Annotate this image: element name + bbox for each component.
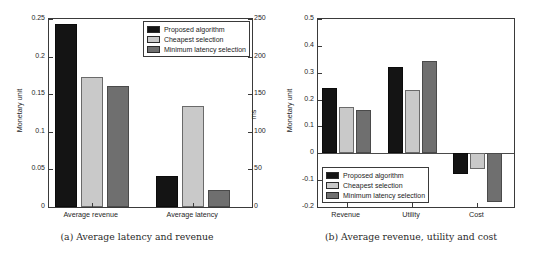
y2-tick-label: 50 <box>254 164 276 172</box>
y-tick <box>318 46 322 47</box>
bar-average-latency-minimum-latency-selection <box>208 190 230 207</box>
y-tick-label: 0.25 <box>18 14 45 22</box>
bar-average-revenue-cheapest-selection <box>81 77 103 207</box>
figure-two-panel-bar-charts: Proposed algorithm Cheapest selection Mi… <box>0 0 548 254</box>
x-tick <box>92 203 93 207</box>
legend-label-minimum-latency-selection: Minimum latency selection <box>343 191 425 200</box>
legend-label-minimum-latency-selection: Minimum latency selection <box>164 45 246 54</box>
legend-swatch-proposed-algorithm <box>326 172 339 179</box>
legend-label-proposed-algorithm: Proposed algorithm <box>343 171 404 180</box>
bar-cost-proposed-algorithm <box>453 153 468 174</box>
y2-tick <box>248 19 252 20</box>
bar-average-latency-cheapest-selection <box>182 106 204 207</box>
y-tick-label: 0.05 <box>18 164 45 172</box>
legend-swatch-minimum-latency-selection <box>326 192 339 199</box>
bar-average-revenue-proposed-algorithm <box>55 24 77 207</box>
y2-tick-label: 150 <box>254 89 276 97</box>
legend-swatch-cheapest-selection <box>147 36 160 43</box>
y2-tick-label: 250 <box>254 14 276 22</box>
bar-average-revenue-minimum-latency-selection <box>107 86 129 207</box>
y2-axis-title-a: ms <box>249 103 258 127</box>
y-tick <box>318 100 322 101</box>
y2-tick-label: 100 <box>254 127 276 135</box>
y2-tick-label: 0 <box>254 202 276 210</box>
legend-swatch-minimum-latency-selection <box>147 46 160 53</box>
legend-item: Cheapest selection <box>147 34 246 44</box>
legend-item: Proposed algorithm <box>326 170 425 180</box>
y-tick <box>49 57 53 58</box>
y-tick-label: 0.5 <box>287 14 314 22</box>
legend-a: Proposed algorithm Cheapest selection Mi… <box>143 21 250 57</box>
x-category-label-cost: Cost <box>431 210 521 219</box>
bar-average-latency-proposed-algorithm <box>156 176 178 207</box>
y2-tick <box>248 132 252 133</box>
x-category-label-average-latency: Average latency <box>147 210 237 219</box>
bar-revenue-cheapest-selection <box>339 107 354 154</box>
legend-item: Minimum latency selection <box>147 44 246 54</box>
y2-tick <box>248 207 252 208</box>
y-tick-label: 0.4 <box>287 41 314 49</box>
y-tick <box>318 73 322 74</box>
y-tick-label: -0.2 <box>287 202 314 210</box>
legend-item: Proposed algorithm <box>147 24 246 34</box>
y-tick <box>49 132 53 133</box>
y-tick <box>318 153 322 154</box>
y-tick-label: 0 <box>287 148 314 156</box>
panel-b: Proposed algorithm Cheapest selection Mi… <box>274 0 548 254</box>
y2-tick-label: 200 <box>254 52 276 60</box>
y-tick <box>49 94 53 95</box>
legend-label-cheapest-selection: Cheapest selection <box>164 35 224 44</box>
y-tick-label: -0.1 <box>287 175 314 183</box>
y-axis-title-b: Monetary unit <box>285 76 294 146</box>
plot-area-a: Proposed algorithm Cheapest selection Mi… <box>48 18 253 208</box>
y-axis-title-a: Monetary unit <box>15 76 24 146</box>
bar-utility-proposed-algorithm <box>388 67 403 153</box>
legend-swatch-cheapest-selection <box>326 182 339 189</box>
y-tick <box>318 19 322 20</box>
legend-item: Cheapest selection <box>326 180 425 190</box>
x-tick <box>477 203 478 207</box>
y-tick <box>49 19 53 20</box>
y-tick <box>49 169 53 170</box>
y2-tick <box>248 169 252 170</box>
x-category-label-average-revenue: Average revenue <box>46 210 136 219</box>
y-tick-label: 0.3 <box>287 68 314 76</box>
y2-tick <box>248 94 252 95</box>
bar-cost-minimum-latency-selection <box>487 153 502 202</box>
bar-revenue-minimum-latency-selection <box>356 110 371 154</box>
bar-utility-minimum-latency-selection <box>422 61 437 154</box>
caption-b: (b) Average revenue, utility and cost <box>274 231 548 242</box>
panel-a: Proposed algorithm Cheapest selection Mi… <box>0 0 274 254</box>
legend-label-proposed-algorithm: Proposed algorithm <box>164 25 225 34</box>
legend-label-cheapest-selection: Cheapest selection <box>343 181 403 190</box>
x-tick <box>347 203 348 207</box>
legend-b: Proposed algorithm Cheapest selection Mi… <box>322 167 429 203</box>
y-tick <box>49 207 53 208</box>
y-tick <box>318 126 322 127</box>
legend-swatch-proposed-algorithm <box>147 26 160 33</box>
bar-cost-cheapest-selection <box>470 153 485 169</box>
y-tick-label: 0.2 <box>18 52 45 60</box>
x-tick <box>412 203 413 207</box>
x-tick <box>193 203 194 207</box>
y-tick <box>318 207 322 208</box>
plot-area-b: Proposed algorithm Cheapest selection Mi… <box>317 18 515 208</box>
legend-item: Minimum latency selection <box>326 190 425 200</box>
bar-utility-cheapest-selection <box>405 90 420 153</box>
bar-revenue-proposed-algorithm <box>322 88 337 153</box>
y-tick-label: 0 <box>18 202 45 210</box>
caption-a: (a) Average latency and revenue <box>0 231 274 242</box>
